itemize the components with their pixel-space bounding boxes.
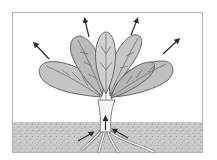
transpiration-diagram <box>0 0 217 160</box>
diagram-svg <box>0 0 217 160</box>
